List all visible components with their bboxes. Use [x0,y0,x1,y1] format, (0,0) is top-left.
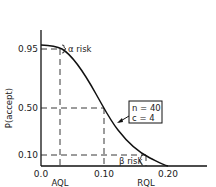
aql-label: AQL [51,178,68,187]
y-tick-095: 0.95 [18,44,38,54]
x-tick-020: 0.20 [158,169,178,179]
arrowhead-icon [117,118,123,123]
y-tick-010: 0.10 [18,150,38,160]
beta-risk-label: β risk [119,156,142,166]
x-tick-010: 0.10 [94,169,114,179]
y-tick-050: 0.50 [18,103,38,113]
rql-label: RQL [137,178,155,187]
y-axis-label: P(accept) [4,88,14,128]
plan-n-label: n = 40 [132,103,161,113]
oc-curve-chart: 0.95 0.50 0.10 P(accept) 0.0 0.10 0.20 A… [0,0,216,187]
plan-c-label: c = 4 [132,113,155,123]
x-tick-00: 0.0 [34,169,49,179]
alpha-risk-label: α risk [68,44,92,54]
